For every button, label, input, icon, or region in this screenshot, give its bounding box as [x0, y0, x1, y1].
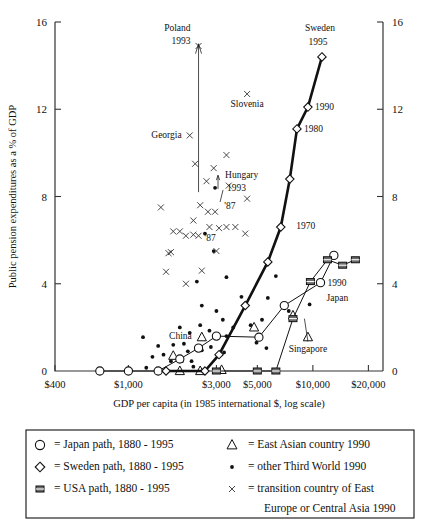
chart-annotation: 1995	[308, 37, 327, 47]
chart-canvas: 00448812121616$400$1,000$3,000$5,000$10,…	[0, 0, 440, 524]
marker-dot	[190, 359, 194, 363]
y-tick-label-right: 0	[392, 365, 398, 377]
marker-dot	[240, 295, 244, 299]
marker-dot	[144, 366, 148, 370]
marker-circle	[96, 367, 104, 375]
marker-x	[196, 233, 202, 239]
marker-x	[206, 224, 212, 230]
marker-dot	[260, 318, 264, 322]
chart-annotation: Japan	[327, 293, 349, 303]
hungary-leader	[220, 190, 223, 202]
marker-x	[212, 209, 218, 215]
marker-dot	[182, 342, 186, 346]
marker-x	[197, 202, 203, 208]
y-tick-label: 8	[42, 191, 48, 203]
legend-item-label: = other Third World 1990	[248, 460, 366, 472]
marker-dot	[198, 323, 202, 327]
marker-x	[232, 224, 238, 230]
legend-item-label: = transition country of East	[248, 482, 375, 495]
marker-triangle	[197, 332, 206, 341]
marker-dot	[209, 345, 213, 349]
marker-x	[192, 161, 198, 167]
marker-dot	[225, 275, 229, 279]
chart-annotation: 1993	[227, 183, 246, 193]
marker-x	[244, 196, 250, 202]
marker-x	[211, 165, 217, 171]
usa-path	[216, 260, 355, 371]
chart-annotation: 1980	[304, 124, 323, 134]
marker-dot	[162, 353, 166, 357]
y-tick-label-right: 12	[392, 103, 403, 115]
chart-annotation: '87	[204, 233, 215, 243]
marker-diamond	[293, 125, 301, 133]
marker-dot	[156, 344, 160, 348]
marker-dot	[287, 309, 291, 313]
legend-item-label: = Sweden path, 1880 - 1995	[54, 460, 184, 473]
marker-x	[223, 224, 229, 230]
marker-x	[205, 209, 211, 215]
marker-x	[223, 152, 229, 158]
marker-diamond	[318, 53, 326, 61]
marker-circle	[35, 440, 44, 449]
legend-item-label: = Japan path, 1880 - 1995	[54, 438, 174, 451]
marker-dot	[274, 274, 278, 278]
marker-dot	[191, 365, 195, 369]
marker-circle	[280, 301, 288, 309]
marker-dot	[266, 296, 270, 300]
marker-dot	[265, 346, 269, 350]
marker-x	[199, 268, 205, 274]
x-tick-label: $10,000	[296, 379, 330, 390]
marker-dot	[208, 329, 212, 333]
marker-dot	[169, 359, 173, 363]
marker-x	[229, 486, 235, 492]
marker-x	[242, 231, 248, 237]
chart-annotation: 1990	[315, 102, 334, 112]
marker-dot	[171, 343, 175, 347]
marker-dot	[200, 304, 204, 308]
marker-dot	[221, 318, 225, 322]
marker-dot	[195, 280, 199, 284]
marker-x	[216, 225, 222, 231]
chart-annotation: '87	[224, 201, 235, 211]
legend-item-label-wrap: Europe or Central Asia 1990	[264, 502, 396, 515]
chart-annotation: Sweden	[305, 23, 335, 33]
x-tick-label: $5,000	[243, 379, 272, 390]
marker-diamond	[35, 462, 45, 472]
y-tick-label: 4	[42, 278, 48, 290]
marker-diamond	[286, 175, 294, 183]
marker-circle	[255, 333, 263, 341]
marker-circle	[212, 332, 220, 340]
marker-triangle	[227, 440, 237, 449]
y-tick-label: 16	[36, 16, 48, 28]
chart-annotation: 1993	[172, 36, 191, 46]
marker-x	[170, 228, 176, 234]
marker-x	[168, 249, 174, 255]
marker-circle	[124, 367, 132, 375]
marker-dot	[308, 303, 312, 307]
y-axis-title: Public pension expenditures as a % of GD…	[7, 105, 18, 289]
y-tick-label-right: 16	[392, 16, 404, 28]
marker-dot	[151, 355, 155, 359]
marker-x	[163, 269, 169, 275]
y-tick-label: 12	[36, 103, 47, 115]
y-tick-label-right: 8	[392, 191, 398, 203]
marker-x	[177, 228, 183, 234]
plot-axes	[55, 22, 383, 371]
marker-dot	[141, 335, 145, 339]
marker-x	[158, 204, 164, 210]
x-tick-label: $3,000	[202, 379, 231, 390]
marker-x	[183, 281, 189, 287]
x-tick-label: $400	[45, 379, 66, 390]
x-axis-title: GDP per capita (in 1985 international $,…	[113, 398, 325, 410]
marker-circle	[176, 355, 184, 363]
chart-annotation: Georgia	[151, 130, 182, 140]
marker-dot	[230, 465, 234, 469]
chart-annotation: Slovenia	[230, 99, 264, 109]
marker-diamond	[304, 103, 312, 111]
legend-item-label: = USA path, 1880 - 1995	[54, 482, 170, 495]
chart-annotation: 1990	[328, 278, 347, 288]
legend-item-label: = East Asian country 1990	[248, 438, 370, 451]
chart-annotation: 1970	[296, 221, 315, 231]
marker-x	[166, 250, 172, 256]
marker-dot	[213, 186, 217, 190]
